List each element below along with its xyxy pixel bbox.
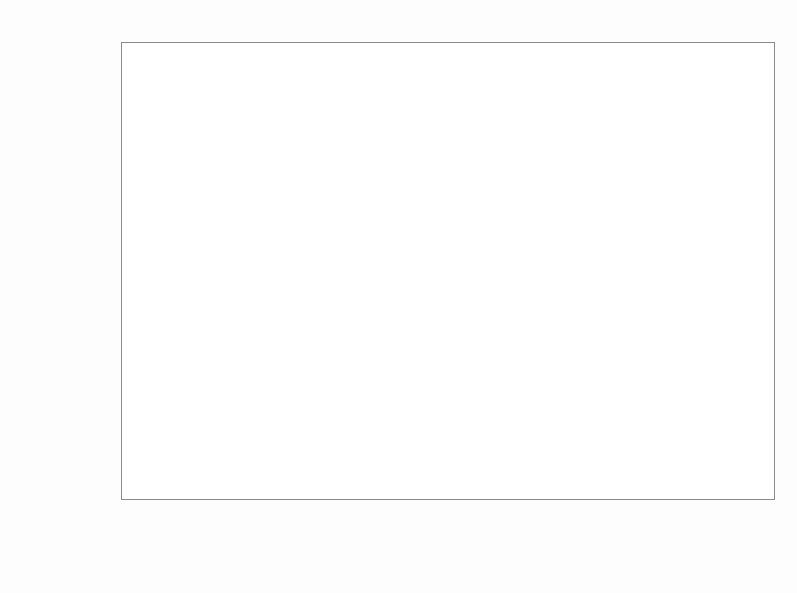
bar-chart-figure bbox=[0, 0, 797, 593]
x-axis bbox=[0, 0, 797, 593]
